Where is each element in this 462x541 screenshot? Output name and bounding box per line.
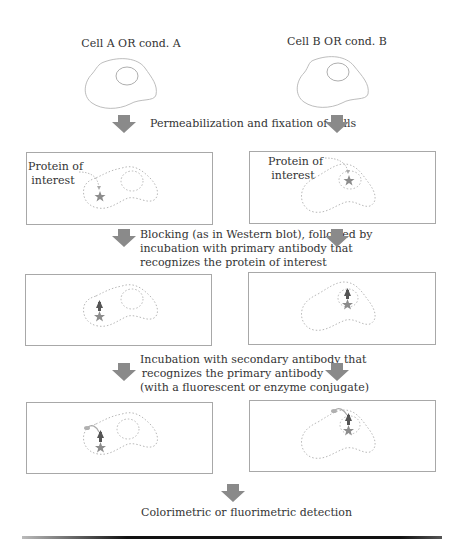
down-arrow-icon	[112, 229, 136, 247]
column-title-left: Cell A OR cond. A	[76, 37, 186, 51]
panel-row2-left	[25, 274, 212, 346]
panel-row3-right	[249, 400, 436, 472]
step-3-text: Incubation with secondary antibody that …	[140, 353, 325, 395]
step-1-text: Permeabilization and fixation of cells	[150, 117, 315, 131]
protein-label-right: Protein of interest	[268, 155, 318, 183]
down-arrow-icon	[325, 363, 349, 381]
panel-row2-right	[248, 272, 436, 345]
down-arrow-icon	[325, 229, 349, 247]
step-2-text: Blocking (as in Western blot), followed …	[140, 228, 325, 270]
protein-label-left: Protein of interest	[28, 160, 78, 188]
down-arrow-icon	[325, 115, 349, 133]
down-arrow-icon	[221, 484, 245, 502]
panel-row3-left	[26, 402, 213, 474]
down-arrow-icon	[112, 363, 136, 381]
column-title-right: Cell B OR cond. B	[282, 35, 392, 49]
down-arrow-icon	[112, 115, 136, 133]
step-4-text: Colorimetric or fluorimetric detection	[141, 506, 321, 520]
bottom-rule	[22, 536, 442, 539]
